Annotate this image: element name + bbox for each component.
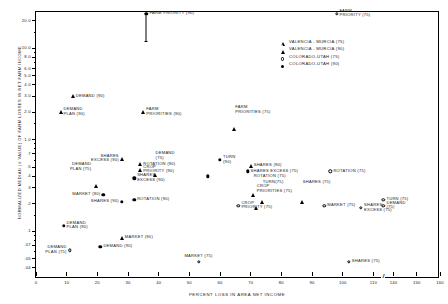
data-point-label: ROTATION (75): [333, 169, 365, 174]
open-circle-marker-icon: [359, 206, 362, 209]
open-circle-marker-icon: [335, 12, 338, 15]
legend-item[interactable]: VALENCIA - MURCIA (75): [279, 39, 344, 46]
y-tick-label: 5.0: [24, 73, 31, 78]
open-circle-marker-icon: [329, 170, 332, 173]
data-point-label: FARM PRIORITIES (75): [235, 105, 270, 114]
filled-circle-marker-icon: [281, 65, 284, 68]
open-circle-marker-icon: [281, 57, 284, 60]
data-point-label: DEMAND (75): [156, 151, 175, 160]
filled-circle-marker-icon: [246, 170, 249, 173]
open-circle-marker-icon: [197, 260, 200, 263]
x-tick-label: 160: [436, 280, 444, 285]
y-tick-label: .2: [27, 201, 31, 206]
data-point-label: CROP PRIORITY (75): [241, 201, 272, 210]
legend-item[interactable]: COLORADO-UTAH (75): [279, 54, 344, 61]
filled-circle-marker-icon: [120, 200, 123, 203]
x-tick-label: 30: [125, 280, 130, 285]
data-point-label: FARM PRIORITY (90): [149, 11, 194, 16]
filled-circle-marker-icon: [62, 224, 65, 227]
filled-circle-marker-icon: [102, 193, 105, 196]
open-circle-marker-icon: [382, 198, 385, 201]
legend-item[interactable]: VALENCIA - MURCIA (90): [279, 46, 344, 53]
data-point-label: SHARES EXCESS (90): [91, 154, 119, 163]
x-tick-label: 140: [390, 280, 398, 285]
y-tick-label: .04: [24, 265, 31, 270]
filled-triangle-marker-icon: [71, 94, 75, 98]
data-point-label: MARKET (75): [327, 203, 355, 208]
x-tick-label: 50: [187, 280, 192, 285]
legend-label: COLORADO-UTAH (75): [289, 54, 339, 59]
y-tick-label: 1.0: [24, 137, 31, 142]
y-tick-label: 6.0: [24, 66, 31, 71]
y-axis-title: NORMALIZED MEDIAN (X VALUE) OF FARM LOSS…: [17, 18, 22, 248]
data-point-label: SHARES (90): [91, 199, 119, 204]
x-tick-label: 80: [279, 280, 284, 285]
legend-label: VALENCIA - MURCIA (90): [289, 46, 344, 51]
data-point-label: DEMAND PLAN (90): [64, 107, 85, 116]
x-tick-label: 10: [64, 280, 69, 285]
filled-circle-marker-icon: [145, 12, 148, 15]
error-bar-cap: [145, 41, 148, 42]
legend-label: COLORADO-UTAH (90): [289, 61, 339, 66]
filled-triangle-marker-icon: [138, 168, 142, 172]
data-point-label: DEMAND PLAN (90): [67, 221, 88, 230]
data-point-label: CROP PRIORITIES (75): [257, 184, 292, 193]
data-point-label: ROTATION (90): [137, 197, 169, 202]
x-axis-title: PERCENT LOSS IN AREA NET INCOME: [35, 292, 439, 297]
data-point-label: DEMAND (90): [103, 244, 132, 249]
data-point-label: DEMAND PLAN (75): [45, 245, 66, 254]
y-tick-label: 3.0: [24, 93, 31, 98]
x-tick-label: 60: [217, 280, 222, 285]
filled-circle-marker-icon: [132, 176, 135, 179]
data-point-label: MARKET (90): [125, 235, 153, 240]
data-point-label: SHARES (75): [303, 180, 331, 185]
data-point-label: FARM PRIORITIES (90): [146, 107, 181, 116]
data-point-label: DEMAND (75): [386, 201, 405, 210]
open-triangle-marker-icon: [94, 167, 98, 188]
filled-circle-marker-icon: [206, 174, 209, 177]
data-point-label: MARKET (75): [184, 254, 212, 259]
filled-circle-marker-icon: [99, 245, 102, 248]
data-point-label: FARM PRIORITY (75): [340, 9, 371, 18]
y-tick-label: 4.0: [24, 82, 31, 87]
y-tick-label: .5: [27, 164, 31, 169]
x-tick-label: 150: [413, 280, 421, 285]
axis-break-icon: //: [381, 273, 384, 279]
filled-triangle-marker-icon: [120, 236, 124, 240]
filled-circle-marker-icon: [132, 198, 135, 201]
open-triangle-marker-icon: [300, 183, 304, 204]
y-tick-label: 20.0: [22, 18, 31, 23]
x-tick-label: 110: [370, 280, 377, 285]
y-tick-label: .3: [27, 185, 31, 190]
legend-item[interactable]: COLORADO-UTAH (90): [279, 61, 344, 68]
filled-triangle-marker-icon: [141, 110, 145, 114]
filled-triangle-marker-icon: [138, 162, 142, 166]
open-circle-marker-icon: [347, 260, 350, 263]
plot-frame: 20.010.08.06.05.04.03.02.01.0.7.5.4.3.2.…: [35, 11, 439, 278]
x-tick-label: 40: [156, 280, 161, 285]
filled-triangle-marker-icon: [120, 157, 124, 161]
filled-triangle-marker-icon: [59, 110, 63, 114]
error-bar: [146, 14, 147, 42]
x-tick-label: 0: [35, 280, 38, 285]
data-point-label: SHARES (75): [352, 259, 380, 264]
filled-circle-marker-icon: [218, 158, 221, 161]
chart-root: NORMALIZED MEDIAN (X VALUE) OF FARM LOSS…: [0, 0, 448, 304]
data-point-label: DEMAND (90): [76, 94, 105, 99]
legend-label: VALENCIA - MURCIA (75): [289, 39, 344, 44]
open-circle-marker-icon: [323, 204, 326, 207]
data-point-label: TURN (90): [223, 155, 235, 164]
x-tick-label: 90: [309, 280, 314, 285]
x-tick-label: 20: [95, 280, 100, 285]
y-tick-label: .4: [27, 173, 31, 178]
y-tick-label: .7: [27, 151, 31, 156]
data-point-label: MARKET (90): [72, 192, 100, 197]
legend: VALENCIA - MURCIA (75)VALENCIA - MURCIA …: [279, 39, 344, 69]
x-tick-label: 100: [339, 280, 347, 285]
open-circle-marker-icon: [237, 204, 240, 207]
open-circle-marker-icon: [68, 248, 71, 251]
y-tick-label: .1: [27, 228, 31, 233]
y-tick-label: .07: [24, 242, 31, 247]
y-tick-label: .05: [24, 256, 31, 261]
data-point-label: SHARES EXCESS (90): [137, 173, 165, 182]
